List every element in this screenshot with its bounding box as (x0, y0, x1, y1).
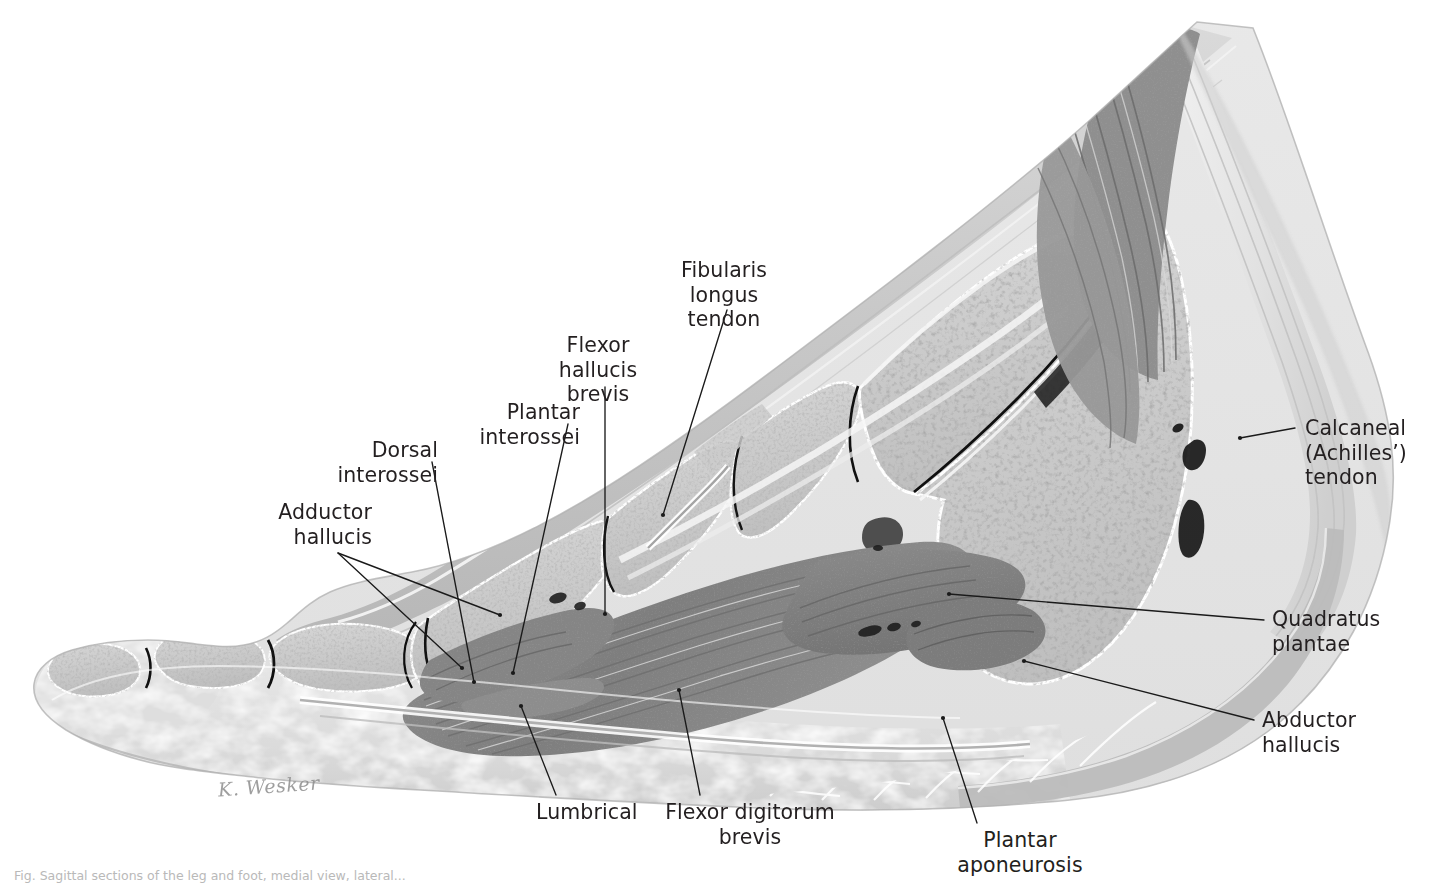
leader-fibularis-longus-tendon-tip (661, 513, 665, 517)
leader-flexor-hallucis-brevis-tip (603, 612, 607, 616)
leader-flexor-digitorum-brevis-tip (677, 688, 681, 692)
label-abductor-hallucis: Abductor hallucis (1262, 708, 1402, 757)
label-dorsal-interossei: Dorsal interossei (272, 438, 438, 487)
leader-adductor-hallucis-b-tip (460, 666, 464, 670)
label-adductor-hallucis: Adductor hallucis (262, 500, 372, 549)
label-flexor-digitorum-brevis: Flexor digitorum brevis (650, 800, 850, 849)
leader-dorsal-interossei-tip (472, 680, 476, 684)
label-plantar-aponeurosis: Plantar aponeurosis (920, 828, 1120, 877)
label-fibularis-longus-tendon: Fibularis longus tendon (650, 258, 798, 332)
leader-quadratus-plantae-tip (947, 592, 951, 596)
label-quadratus-plantae: Quadratus plantae (1272, 607, 1412, 656)
label-calcaneal-achilles-tendon: Calcaneal (Achilles’) tendon (1305, 416, 1445, 490)
leader-plantar-aponeurosis-tip (941, 716, 945, 720)
figure-caption: Fig. Sagittal sections of the leg and fo… (14, 868, 406, 884)
leader-calcaneal-achilles-tendon-tip (1238, 436, 1242, 440)
leader-abductor-hallucis-tip (1022, 659, 1026, 663)
label-flexor-hallucis-brevis: Flexor hallucis brevis (528, 333, 668, 407)
leader-plantar-interossei-tip (511, 671, 515, 675)
leader-adductor-hallucis-tip (498, 613, 502, 617)
leader-lumbrical-tip (519, 704, 523, 708)
anatomy-plate: Fibularis longus tendonFlexor hallucis b… (0, 0, 1447, 884)
sagittal-foot-illustration (0, 0, 1447, 884)
label-lumbrical: Lumbrical (536, 800, 636, 825)
